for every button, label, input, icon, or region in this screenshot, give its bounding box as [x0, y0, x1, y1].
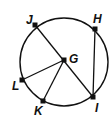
segment-gk [43, 60, 64, 101]
point-g [62, 58, 67, 63]
point-k [41, 99, 46, 104]
label-g: G [69, 52, 78, 66]
point-i [91, 95, 96, 100]
label-i: I [95, 101, 99, 115]
label-l: L [12, 79, 19, 93]
label-j: J [26, 13, 33, 27]
segment-hi [93, 29, 95, 97]
point-h [93, 27, 98, 32]
label-k: K [34, 104, 44, 118]
segment-gl [22, 60, 64, 80]
point-j [33, 23, 38, 28]
circle-diagram: J H G L K I [0, 0, 112, 120]
label-h: H [93, 12, 102, 26]
point-l [20, 78, 25, 83]
